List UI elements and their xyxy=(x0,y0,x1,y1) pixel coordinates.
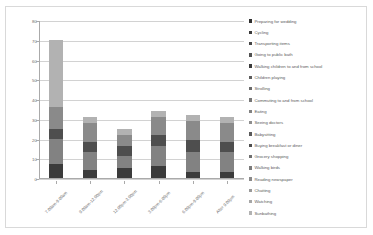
legend-item[interactable]: Eating xyxy=(249,107,267,115)
bar-segment[interactable] xyxy=(151,135,165,147)
legend-swatch-icon xyxy=(249,42,252,45)
legend-item[interactable]: Seeing doctors xyxy=(249,119,283,127)
bar-segment[interactable] xyxy=(186,121,200,141)
legend-swatch-icon xyxy=(249,110,252,113)
legend-item-label: Seeing doctors xyxy=(254,120,283,125)
legend-swatch-icon xyxy=(249,31,252,34)
legend-item[interactable]: Babysitting xyxy=(249,130,275,138)
legend-item[interactable]: Transporting items xyxy=(249,40,290,48)
legend-swatch-icon xyxy=(249,98,252,101)
bar-column[interactable] xyxy=(186,115,200,178)
plot-area xyxy=(39,21,244,179)
x-axis-tick-label: 6.00pm-9.00pm xyxy=(181,190,205,214)
bar-segment[interactable] xyxy=(83,152,97,170)
x-axis-tick xyxy=(90,181,91,184)
gridline xyxy=(39,179,244,180)
bar-segment[interactable] xyxy=(49,40,63,107)
legend-item-label: Cycling xyxy=(254,30,268,35)
x-axis-tick xyxy=(193,181,194,184)
bar-segment[interactable] xyxy=(83,142,97,152)
x-axis-tick xyxy=(159,181,160,184)
bar-segment[interactable] xyxy=(49,139,63,165)
legend-item-label: Walking birds xyxy=(254,165,280,170)
legend-swatch-icon xyxy=(249,189,252,192)
legend-item-label: Reading newspaper xyxy=(254,177,292,182)
legend-item-label: Grocery shopping xyxy=(254,154,288,159)
legend-item[interactable]: Chatting xyxy=(249,187,270,195)
x-axis-tick-label: 3.00pm-6.00pm xyxy=(147,190,171,214)
legend-item[interactable]: Commuting to and from school xyxy=(249,96,313,104)
chart-legend: Preparing for weddingCyclingTransporting… xyxy=(249,17,372,223)
bar-segment[interactable] xyxy=(49,129,63,139)
bar-segment[interactable] xyxy=(83,123,97,143)
bar-segment[interactable] xyxy=(117,146,131,156)
legend-item-label: Chatting xyxy=(254,188,270,193)
legend-swatch-icon xyxy=(249,53,252,56)
legend-swatch-icon xyxy=(249,211,252,214)
legend-item-label: Going to public bath xyxy=(254,52,292,57)
legend-swatch-icon xyxy=(249,132,252,135)
legend-item[interactable]: Going to public bath xyxy=(249,51,293,59)
legend-item-label: Sunbathing xyxy=(254,211,276,216)
legend-item[interactable]: Preparing for wedding xyxy=(249,17,296,25)
x-axis-tick-label: 12.00pm-3.00pm xyxy=(112,189,138,215)
legend-swatch-icon xyxy=(249,19,252,22)
legend-item-label: Eating xyxy=(254,109,266,114)
bar-segment[interactable] xyxy=(117,168,131,178)
bar-segment[interactable] xyxy=(220,142,234,152)
bar-segment[interactable] xyxy=(151,117,165,135)
bar-segment[interactable] xyxy=(151,166,165,178)
legend-item[interactable]: Reading newspaper xyxy=(249,175,293,183)
legend-item[interactable]: Strolling xyxy=(249,85,270,93)
legend-item[interactable]: Sunbathing xyxy=(249,209,276,217)
legend-item-label: Transporting items xyxy=(254,41,289,46)
bar-segment[interactable] xyxy=(151,146,165,166)
bar-series-group xyxy=(39,21,244,179)
legend-item-label: Babysitting xyxy=(254,132,275,137)
legend-item[interactable]: Walking children to and from school xyxy=(249,62,322,70)
x-axis-tick xyxy=(56,181,57,184)
bar-segment[interactable] xyxy=(117,135,131,147)
y-axis-tick xyxy=(36,179,39,180)
legend-swatch-icon xyxy=(249,166,252,169)
bar-segment[interactable] xyxy=(83,170,97,178)
bar-segment[interactable] xyxy=(186,140,200,152)
y-axis-labels: 01020304050607080 xyxy=(22,21,37,179)
legend-item-label: Watching xyxy=(254,199,272,204)
x-axis-tick xyxy=(124,181,125,184)
bar-segment[interactable] xyxy=(186,172,200,178)
legend-item[interactable]: Cycling xyxy=(249,28,268,36)
x-axis-tick-label: After 9.00pm xyxy=(215,194,235,214)
legend-swatch-icon xyxy=(249,144,252,147)
legend-item[interactable]: Buying breakfast or diner xyxy=(249,141,302,149)
legend-swatch-icon xyxy=(249,200,252,203)
bar-column[interactable] xyxy=(49,40,63,178)
bar-segment[interactable] xyxy=(49,107,63,129)
x-axis-tick-label: 9.00am-12.00pm xyxy=(78,189,104,215)
legend-item-label: Commuting to and from school xyxy=(254,98,313,103)
bar-segment[interactable] xyxy=(117,156,131,168)
legend-swatch-icon xyxy=(249,76,252,79)
bar-segment[interactable] xyxy=(186,152,200,172)
legend-item[interactable]: Grocery shopping xyxy=(249,153,288,161)
x-axis-tick-label: 7.00am-9.00am xyxy=(44,190,68,214)
legend-item-label: Children playing xyxy=(254,75,285,80)
bar-segment[interactable] xyxy=(220,152,234,172)
bar-segment[interactable] xyxy=(220,172,234,178)
legend-item-label: Strolling xyxy=(254,86,270,91)
legend-item-label: Walking children to and from school xyxy=(254,64,322,69)
legend-item[interactable]: Watching xyxy=(249,198,272,206)
bar-column[interactable] xyxy=(117,129,131,178)
legend-item-label: Buying breakfast or diner xyxy=(254,143,302,148)
bar-column[interactable] xyxy=(151,111,165,178)
legend-item[interactable]: Walking birds xyxy=(249,164,280,172)
bar-segment[interactable] xyxy=(220,123,234,143)
bar-column[interactable] xyxy=(220,117,234,178)
x-axis-labels: 7.00am-9.00am9.00am-12.00pm12.00pm-3.00p… xyxy=(39,181,244,223)
legend-swatch-icon xyxy=(249,121,252,124)
bar-segment[interactable] xyxy=(49,164,63,178)
legend-item[interactable]: Children playing xyxy=(249,74,285,82)
legend-swatch-icon xyxy=(249,64,252,67)
legend-swatch-icon xyxy=(249,177,252,180)
bar-column[interactable] xyxy=(83,117,97,178)
